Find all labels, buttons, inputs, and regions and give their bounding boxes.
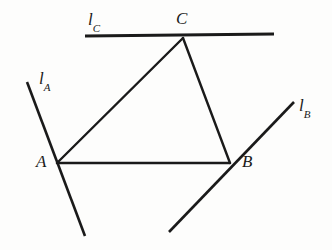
line-label-la-subscript: A [44, 81, 51, 93]
line-label-la: lA [39, 70, 50, 90]
line-label-lb-subscript: B [304, 108, 311, 120]
line-label-lc-subscript: C [93, 22, 100, 34]
vertex-label-b: B [242, 153, 252, 170]
line-lB [169, 102, 294, 232]
geometry-canvas [0, 0, 332, 250]
vertex-label-c: C [176, 10, 187, 27]
geometry-diagram: lC lA lB C A B [0, 0, 332, 250]
vertex-label-a: A [36, 153, 46, 170]
line-label-lc: lC [88, 11, 100, 31]
triangle-edge-AC [57, 38, 183, 163]
triangle-edge-CB [183, 38, 230, 163]
line-label-lb: lB [299, 97, 310, 117]
line-lC [85, 34, 274, 36]
